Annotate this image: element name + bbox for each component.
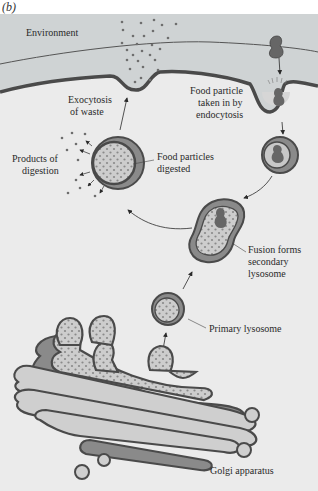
label-digested-1: Food particles bbox=[157, 151, 214, 162]
label-endocytosis-1: Food particle bbox=[190, 85, 244, 96]
label-digested-2: digested bbox=[157, 163, 190, 174]
label-products-2: digestion bbox=[22, 165, 59, 176]
food-particle-outside bbox=[269, 36, 283, 58]
label-endocytosis-2: taken in by bbox=[198, 97, 242, 108]
label-exocytosis-1: Exocytosis bbox=[68, 94, 112, 105]
digesting-lysosome bbox=[92, 137, 144, 189]
label-exocytosis-2: of waste bbox=[70, 106, 104, 117]
lysosome-diagram: Environment Exocytosis of waste Food par… bbox=[0, 14, 318, 491]
label-fusion-2: secondary bbox=[248, 256, 289, 267]
label-golgi: Golgi apparatus bbox=[210, 465, 274, 476]
label-fusion-3: lysosome bbox=[248, 268, 286, 279]
panel-label: (b) bbox=[2, 0, 16, 15]
label-endocytosis-3: endocytosis bbox=[196, 109, 243, 120]
label-fusion-1: Fusion forms bbox=[248, 244, 301, 255]
primary-lysosome bbox=[152, 293, 184, 325]
label-environment: Environment bbox=[26, 27, 78, 38]
endosome bbox=[262, 137, 298, 173]
label-products-1: Products of bbox=[12, 153, 59, 164]
label-primary-lysosome: Primary lysosome bbox=[209, 323, 282, 334]
